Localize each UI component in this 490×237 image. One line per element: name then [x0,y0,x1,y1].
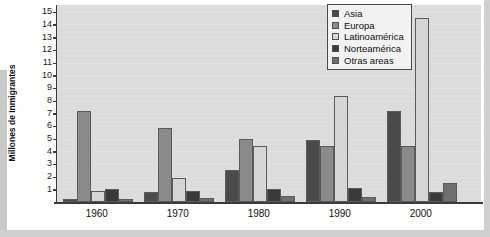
legend-swatch-icon [332,22,339,29]
x-axis-line [54,202,483,204]
y-axis-tick-label: 4 [47,147,52,156]
legend-item-label: Norteamérica [344,43,401,54]
page-edge-bottom [0,230,490,237]
bar-europa-1960 [77,111,91,202]
bar-europa-1980 [239,139,253,202]
y-axis-tick-label: 15 [42,7,52,16]
y-axis-tick [53,37,57,39]
x-axis-tick-label: 1970 [167,208,189,219]
legend-swatch-icon [332,45,339,52]
bar-otrasareas-2000 [443,183,457,202]
y-axis-tick [53,113,57,115]
legend-item-label: Otras areas [344,55,394,66]
bar-latinoamrica-1960 [91,191,105,202]
y-axis-tick-label: 2 [47,172,52,181]
legend-item-norteamrica: Norteamérica [332,43,404,55]
y-axis-tick-label: 8 [47,96,52,105]
bar-norteamrica-2000 [429,192,443,202]
y-axis-tick-label: 11 [43,58,52,67]
y-axis-tick [53,177,57,179]
y-axis-tick [53,151,57,153]
bar-asia-1990 [306,140,320,202]
y-axis-tick [53,75,57,77]
bar-latinoamrica-2000 [415,18,429,202]
y-axis-tick [53,101,57,103]
bar-norteamrica-1990 [348,188,362,202]
y-axis-tick [53,139,57,141]
y-axis-tick-label: 5 [47,134,52,143]
y-axis-tick-label: 7 [47,109,52,118]
y-axis-tick [53,63,57,65]
legend: AsiaEuropaLatinoaméricaNorteaméricaOtras… [327,4,412,70]
legend-item-europa: Europa [332,20,404,32]
legend-swatch-icon [332,10,339,17]
page-edge-right [484,0,490,237]
y-axis-tick-label: 6 [47,121,52,130]
y-axis-tick [53,126,57,128]
x-axis-tick-label: 2000 [410,208,432,219]
y-axis-tick [53,50,57,52]
bar-latinoamrica-1970 [172,178,186,202]
bar-asia-1980 [225,170,239,202]
bar-europa-2000 [401,146,415,202]
y-axis-tick-labels: 123456789101112131415 [26,0,52,202]
legend-item-label: Asia [344,8,362,19]
bar-europa-1990 [320,146,334,202]
legend-item-asia: Asia [332,8,404,20]
legend-swatch-icon [332,33,339,40]
y-axis-title: Millones de Inmigrantes [4,25,20,200]
y-axis-tick-label: 12 [42,45,52,54]
bar-norteamrica-1960 [105,189,119,202]
y-axis-tick-label: 14 [42,20,52,29]
y-axis-tick [53,24,57,26]
legend-swatch-icon [332,57,339,64]
bar-latinoamrica-1990 [334,96,348,203]
y-axis-tick [53,164,57,166]
x-axis-tick-label: 1990 [329,208,351,219]
x-axis-tick-label: 1980 [248,208,270,219]
bar-asia-1970 [144,192,158,202]
bar-asia-2000 [387,111,401,202]
legend-item-label: Europa [344,20,375,31]
y-axis-tick [53,88,57,90]
y-axis-tick-label: 3 [47,159,52,168]
bar-norteamrica-1970 [186,191,200,202]
bar-norteamrica-1980 [267,189,281,202]
bar-latinoamrica-1980 [253,146,267,202]
y-axis-title-label: Millones de Inmigrantes [7,64,17,161]
y-axis-tick-label: 9 [47,83,52,92]
x-axis-tick-labels: 19601970198019902000 [56,206,481,226]
legend-item-latinoamrica: Latinoamérica [332,31,404,43]
bars-container [57,5,481,202]
bar-europa-1970 [158,128,172,202]
y-axis-tick-label: 10 [42,71,52,80]
legend-item-otrasareas: Otras areas [332,54,404,66]
y-axis-tick [53,189,57,191]
y-axis-tick-label: 1 [47,185,52,194]
chart-screenshot: Millones de Inmigrantes 1234567891011121… [0,0,490,237]
y-axis-tick [53,12,57,14]
x-axis-tick-label: 1960 [86,208,108,219]
plot-area [56,5,481,202]
legend-item-label: Latinoamérica [344,31,404,42]
gridline [57,12,481,13]
y-axis-tick-label: 13 [42,33,52,42]
